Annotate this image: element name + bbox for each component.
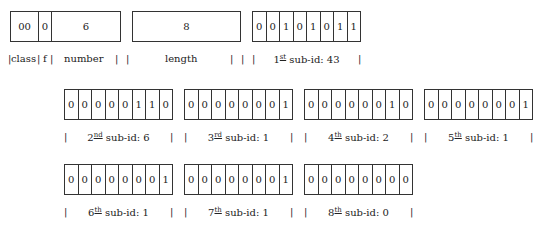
bit-cell: 0 [133,165,147,194]
divider-mark: | [230,53,233,64]
bit-cell: 0 [332,165,346,194]
sub-id-3-byte: 00000001 [184,89,293,120]
sub-id-label: 7th sub-id: 1 [184,206,293,218]
length-field: 8 [132,11,241,42]
bit-cell: 0 [119,90,133,119]
bit-cell: 0 [65,90,79,119]
bit-cell: 1 [133,90,147,119]
bit-cell: 0 [92,165,106,194]
sub-id-text: sub-id: 0 [345,207,389,218]
sub-id-4-byte: 00000010 [304,89,413,120]
class-f-number-field: 00 0 6 [10,11,121,42]
bit-cell: 0 [119,165,133,194]
bit-cell: 0 [452,90,466,119]
sub-id-label: 4th sub-id: 2 [304,131,413,143]
bit-cell: 0 [305,165,319,194]
bit-cell: 0 [266,90,280,119]
ordinal-suffix: nd [94,131,103,139]
bit-cell: 0 [400,90,413,119]
bit-cell: 0 [160,90,173,119]
bit-cell: 0 [106,165,120,194]
bit-cell: 0 [212,90,226,119]
ordinal-suffix: th [94,206,101,214]
ordinal-suffix: th [334,206,341,214]
sub-id-label: 1st sub-id: 43 [252,53,361,65]
bit-cell: 0 [373,165,387,194]
bit-cell: 0 [346,90,360,119]
sub-id-6-byte: 00000001 [64,164,173,195]
bit-cell: 0 [493,90,507,119]
bit-cell: 0 [267,12,281,41]
bit-cell: 0 [332,90,346,119]
divider-mark: | [126,53,129,64]
bit-cell: 0 [239,90,253,119]
bit-cell: 0 [319,165,333,194]
sub-id-text: sub-id: 1 [465,132,509,143]
sub-id-label: 6th sub-id: 1 [64,206,173,218]
f-label: f [43,53,47,64]
bit-cell: 1 [146,90,160,119]
bit-cell: 0 [239,165,253,194]
bit-cell: 1 [520,90,533,119]
divider-mark: | [50,53,53,64]
divider-mark: | [37,53,40,64]
bit-cell: 0 [319,90,333,119]
bit-cell: 1 [280,165,293,194]
f-cell: 0 [39,12,52,41]
sub-id-5-byte: 00000001 [424,89,533,120]
ordinal-suffix: rd [214,131,222,139]
bit-cell: 0 [386,165,400,194]
bit-cell: 0 [79,165,93,194]
bit-cell: 0 [79,90,93,119]
sub-id-label: 5th sub-id: 1 [424,131,533,143]
divider-mark: | [115,53,118,64]
sub-id-text: sub-id: 2 [345,132,389,143]
bit-cell: 0 [253,90,267,119]
bit-cell: 0 [65,165,79,194]
bit-cell: 0 [226,165,240,194]
bit-cell: 0 [506,90,520,119]
sub-id-8-byte: 00000000 [304,164,413,195]
bit-cell: 0 [185,90,199,119]
bit-cell: 1 [280,12,294,41]
bit-cell: 0 [199,165,213,194]
sub-id-label: 2nd sub-id: 6 [64,131,173,143]
bit-cell: 0 [359,90,373,119]
sub-id-text: sub-id: 1 [225,132,269,143]
bit-cell: 0 [479,90,493,119]
sub-id-2-byte: 00000110 [64,89,173,120]
ordinal-suffix: st [280,53,286,61]
bit-cell: 0 [253,165,267,194]
number-label: number [64,53,103,64]
bit-cell: 0 [185,165,199,194]
bit-cell: 0 [294,12,308,41]
sub-id-label: 3rd sub-id: 1 [184,131,293,143]
bit-cell: 0 [226,90,240,119]
bit-cell: 0 [146,165,160,194]
length-cell: 8 [133,12,240,41]
bit-cell: 0 [106,90,120,119]
bit-cell: 1 [386,90,400,119]
bit-cell: 0 [425,90,439,119]
bit-cell: 0 [266,165,280,194]
sub-id-7-byte: 00000001 [184,164,293,195]
sub-id-text: sub-id: 6 [106,132,150,143]
class-cell: 00 [11,12,39,41]
bit-cell: 0 [346,165,360,194]
sub-id-text: sub-id: 43 [289,54,339,65]
class-label: class [11,53,36,64]
bit-cell: 1 [160,165,173,194]
ordinal-suffix: th [334,131,341,139]
number-cell: 6 [52,12,120,41]
bit-cell: 1 [280,90,293,119]
divider-mark: | [241,53,244,64]
bit-cell: 0 [92,90,106,119]
bit-cell: 0 [359,165,373,194]
bit-cell: 0 [400,165,413,194]
sub-id-text: sub-id: 1 [105,207,149,218]
bit-cell: 0 [439,90,453,119]
bit-cell: 0 [253,12,267,41]
sub-id-1-byte: 00101011 [252,11,361,42]
bit-cell: 1 [307,12,321,41]
ordinal-suffix: th [214,206,221,214]
